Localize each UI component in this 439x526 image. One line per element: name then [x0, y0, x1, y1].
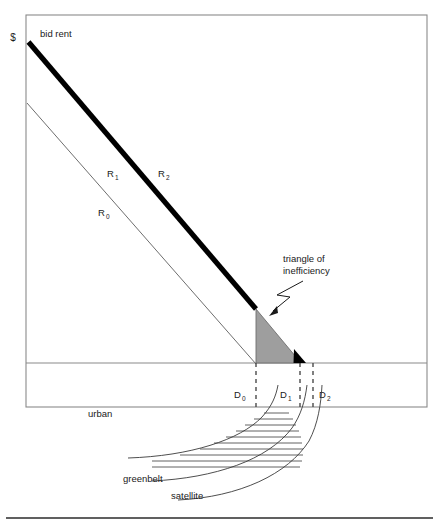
svg-text:2: 2	[327, 395, 331, 402]
svg-text:2: 2	[166, 174, 170, 181]
figure-root: $ bid rent R 1 R 2 R 0 triangle of ineff…	[0, 0, 439, 526]
svg-text:R: R	[98, 207, 105, 218]
svg-text:0: 0	[106, 213, 110, 220]
svg-text:D: D	[234, 389, 241, 400]
svg-text:1: 1	[115, 174, 119, 181]
svg-text:1: 1	[288, 395, 292, 402]
bid-rent-label: bid rent	[40, 28, 72, 39]
svg-text:inefficiency: inefficiency	[283, 265, 330, 276]
svg-text:R: R	[158, 168, 165, 179]
svg-text:D: D	[319, 389, 326, 400]
zone-label-satellite: satellite	[171, 490, 203, 501]
svg-text:D: D	[280, 389, 287, 400]
triangle-of-inefficiency-label: triangle of inefficiency	[283, 253, 330, 276]
zone-label-greenbelt: greenbelt	[123, 473, 163, 484]
y-axis-label-dollar: $	[10, 32, 16, 43]
svg-text:triangle of: triangle of	[283, 253, 325, 264]
bid-rent-diagram: $ bid rent R 1 R 2 R 0 triangle of ineff…	[0, 0, 439, 526]
svg-text:0: 0	[242, 395, 246, 402]
zone-label-urban: urban	[88, 408, 112, 419]
svg-text:R: R	[107, 168, 114, 179]
